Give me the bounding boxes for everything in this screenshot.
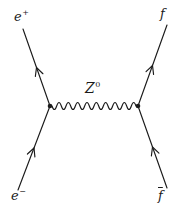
electron-symbol: e	[11, 188, 19, 203]
antifermion-symbol: f	[158, 188, 163, 203]
left-vertex-dot	[48, 104, 53, 109]
fermion-label: f	[160, 7, 165, 20]
diagram-canvas	[0, 0, 184, 217]
electron-charge-sup: −	[19, 187, 26, 196]
right-vertex-dot	[136, 104, 141, 109]
positron-symbol: e	[14, 9, 22, 24]
electron-label: e−	[11, 188, 26, 202]
z-boson-sup: 0	[95, 80, 100, 89]
z-boson-label: Z0	[85, 81, 100, 95]
antifermion-label: f	[158, 189, 163, 202]
feynman-diagram: e+ f Z0 e− f	[0, 0, 184, 217]
positron-label: e+	[14, 9, 29, 23]
z-propagator-wavy-line	[52, 103, 136, 110]
fermion-symbol: f	[160, 6, 165, 21]
positron-charge-sup: +	[22, 8, 29, 17]
z-boson-symbol: Z	[85, 80, 95, 96]
